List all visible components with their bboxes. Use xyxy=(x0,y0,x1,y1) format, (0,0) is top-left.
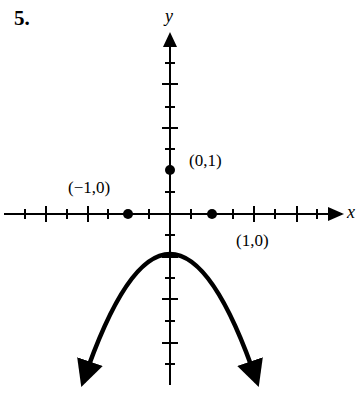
y-axis xyxy=(162,32,178,385)
point-label-pos1: (1,0) xyxy=(236,231,269,251)
point-1-0 xyxy=(207,209,217,219)
graph xyxy=(0,0,361,404)
point-label-top: (0,1) xyxy=(189,151,222,171)
x-axis-arrow-icon xyxy=(328,207,344,221)
point-neg1-0 xyxy=(123,209,133,219)
y-axis-arrow-icon xyxy=(163,32,177,47)
x-axis-label: x xyxy=(347,202,355,223)
x-axis xyxy=(4,206,344,222)
point-label-neg1: (−1,0) xyxy=(68,178,110,198)
y-axis-label: y xyxy=(165,6,173,27)
point-0-1 xyxy=(165,165,175,175)
